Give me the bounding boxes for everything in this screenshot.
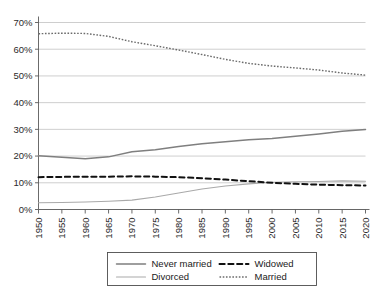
- x-tick-label: 1950: [33, 218, 44, 239]
- x-tick-label: 1960: [80, 218, 91, 239]
- x-axis: 1950195519601965197019751980198519901995…: [33, 210, 371, 239]
- y-tick-label: 70%: [13, 17, 33, 28]
- series-line-married: [39, 33, 366, 75]
- series-layer: [39, 33, 366, 203]
- legend-label: Never married: [152, 258, 212, 269]
- y-tick-label: 50%: [13, 70, 33, 81]
- x-tick-label: 1985: [196, 218, 207, 239]
- y-axis: 0%10%20%30%40%50%60%70%: [13, 17, 38, 215]
- chart-canvas: 0%10%20%30%40%50%60%70%19501955196019651…: [0, 0, 386, 295]
- x-tick-label: 2005: [290, 218, 301, 239]
- x-tick-label: 1955: [56, 218, 67, 239]
- x-tick-label: 1965: [103, 218, 114, 239]
- x-tick-label: 1980: [173, 218, 184, 239]
- y-tick-label: 10%: [13, 177, 33, 188]
- marital-status-line-chart: 0%10%20%30%40%50%60%70%19501955196019651…: [0, 0, 386, 295]
- y-tick-label: 20%: [13, 150, 33, 161]
- x-tick-label: 2015: [337, 218, 348, 239]
- legend-label: Widowed: [255, 258, 294, 269]
- legend-label: Divorced: [152, 271, 190, 282]
- series-line-never-married: [39, 130, 366, 159]
- x-tick-label: 2000: [266, 218, 277, 239]
- y-tick-label: 0%: [19, 204, 33, 215]
- y-tick-label: 60%: [13, 44, 33, 55]
- x-tick-label: 1990: [220, 218, 231, 239]
- y-tick-label: 40%: [13, 97, 33, 108]
- x-tick-label: 2020: [360, 218, 371, 239]
- legend-label: Married: [255, 271, 287, 282]
- legend: Never marriedWidowedDivorcedMarried: [108, 253, 317, 286]
- x-tick-label: 1970: [126, 218, 137, 239]
- series-line-widowed: [39, 176, 366, 185]
- y-tick-label: 30%: [13, 124, 33, 135]
- x-tick-label: 1975: [150, 218, 161, 239]
- x-tick-label: 1995: [243, 218, 254, 239]
- x-tick-label: 2010: [313, 218, 324, 239]
